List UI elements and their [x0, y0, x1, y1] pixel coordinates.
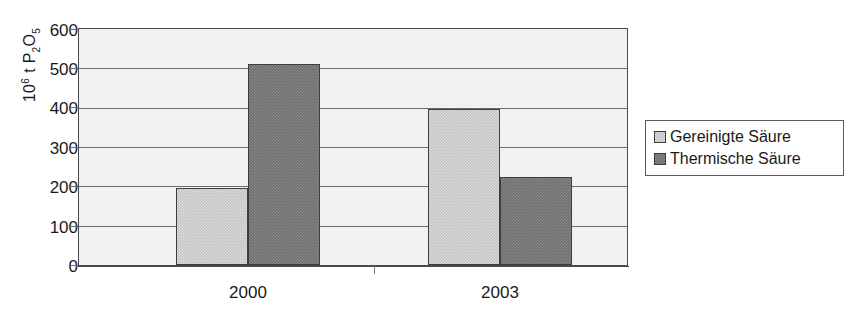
plot-area	[78, 28, 628, 266]
y-tick-label-600: 600	[16, 22, 78, 39]
legend-swatch-thermische-saeure-icon	[654, 153, 666, 165]
legend-label-gereinigte-saeure: Gereinigte Säure	[670, 128, 791, 146]
y-tick-mark-500	[70, 68, 78, 69]
legend-item-thermische-saeure[interactable]: Thermische Säure	[654, 148, 837, 170]
chart-legend: Gereinigte Säure Thermische Säure	[645, 120, 844, 176]
gridline-300	[79, 147, 627, 148]
y-tick-label-500: 500	[16, 61, 78, 78]
y-tick-mark-0	[70, 265, 78, 266]
y-tick-label-0: 0	[16, 258, 78, 275]
y-tick-mark-200	[70, 186, 78, 187]
y-tick-label-400: 400	[16, 100, 78, 117]
gridline-400	[79, 108, 627, 109]
bar-2000-gereinigte-saeure	[176, 188, 248, 266]
y-tick-mark-300	[70, 147, 78, 148]
y-tick-label-300: 300	[16, 140, 78, 157]
gridline-500	[79, 68, 627, 69]
bar-chart: 106t P2O5 600 500 400 300 200 100 0 200	[0, 0, 860, 322]
x-tick-label-2000: 2000	[188, 284, 308, 302]
y-axis: 600 500 400 300 200 100 0	[0, 0, 78, 322]
x-axis-line	[78, 266, 629, 267]
y-tick-mark-100	[70, 226, 78, 227]
legend-item-gereinigte-saeure[interactable]: Gereinigte Säure	[654, 126, 837, 148]
bar-2000-thermische-saeure	[248, 64, 320, 265]
bar-2003-thermische-saeure	[500, 177, 572, 265]
x-axis-category-divider	[374, 266, 375, 274]
legend-label-thermische-saeure: Thermische Säure	[670, 150, 801, 168]
y-tick-mark-600	[70, 29, 78, 30]
x-tick-label-2003: 2003	[440, 284, 560, 302]
y-tick-label-100: 100	[16, 219, 78, 236]
legend-swatch-gereinigte-saeure-icon	[654, 131, 666, 143]
bar-2003-gereinigte-saeure	[428, 109, 500, 265]
y-tick-mark-400	[70, 107, 78, 108]
y-tick-label-200: 200	[16, 179, 78, 196]
